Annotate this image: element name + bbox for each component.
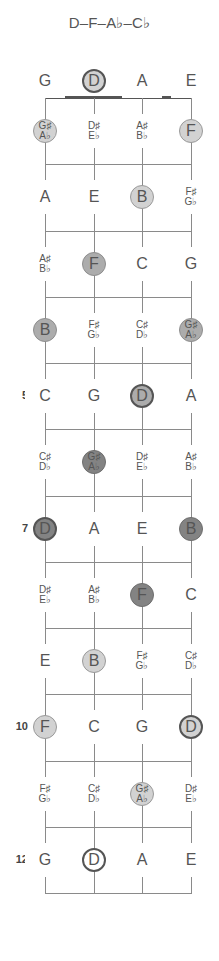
note-fret10-string-G: F <box>25 710 65 744</box>
enharmonic-note-name: F♯G♭ <box>88 320 101 340</box>
flat-name: A♭ <box>185 330 198 340</box>
note-fret8-string-E: C <box>171 578 211 612</box>
note-fret1-string-A: A♯B♭ <box>122 114 162 148</box>
note-fret7-string-E: B <box>171 512 211 546</box>
chord-tone-marker: G♯A♭ <box>130 782 154 806</box>
chord-tone-marker: F <box>130 583 154 607</box>
chord-tone-marker: F <box>179 119 203 143</box>
note-name: A <box>40 189 51 205</box>
note-fret2-string-G: A <box>25 180 65 214</box>
flat-name: G♭ <box>136 661 149 671</box>
note-fret5-string-D: G <box>74 379 114 413</box>
note-name: E <box>186 73 197 89</box>
flat-name: G♭ <box>185 197 198 207</box>
flat-name: B♭ <box>88 595 100 605</box>
note-fret3-string-A: C <box>122 247 162 281</box>
enharmonic-note-name: G♯A♭ <box>136 784 149 804</box>
root-note-marker: D <box>33 517 57 541</box>
note-fret7-string-D: A <box>74 512 114 546</box>
fret-line-12 <box>45 893 192 894</box>
note-fret1-string-G: G♯A♭ <box>25 114 65 148</box>
note-name: E <box>137 521 148 537</box>
note-name: F <box>137 587 147 603</box>
fret-line-5 <box>45 429 192 430</box>
note-name: C <box>136 256 148 272</box>
root-note-marker: D <box>130 384 154 408</box>
note-name: A <box>137 852 148 868</box>
note-name: E <box>186 852 197 868</box>
enharmonic-note-name: A♯B♭ <box>136 121 148 141</box>
flat-name: D♭ <box>39 462 51 472</box>
fretboard-diagram: 571012GDAEG♯A♭D♯E♭A♯B♭FAEBF♯G♭A♯B♭FCGBF♯… <box>0 0 219 961</box>
note-fret9-string-G: E <box>25 644 65 678</box>
note-fret4-string-D: F♯G♭ <box>74 313 114 347</box>
enharmonic-note-name: G♯A♭ <box>39 121 52 141</box>
note-name: F <box>89 256 99 272</box>
note-name: B <box>137 189 148 205</box>
root-note-marker: D <box>179 715 203 739</box>
fret-line-10 <box>45 761 192 762</box>
fret-line-7 <box>45 562 192 563</box>
enharmonic-note-name: A♯B♭ <box>185 452 197 472</box>
fret-line-4 <box>45 363 192 364</box>
chord-tone-marker: F <box>82 252 106 276</box>
note-name: G <box>185 256 197 272</box>
note-fret12-string-E: E <box>171 843 211 877</box>
flat-name: B♭ <box>136 131 148 141</box>
flat-name: E♭ <box>88 131 100 141</box>
note-name: F <box>40 719 50 735</box>
flat-name: A♭ <box>136 794 149 804</box>
note-fret12-string-A: A <box>122 843 162 877</box>
note-fret3-string-E: G <box>171 247 211 281</box>
note-fret8-string-G: D♯E♭ <box>25 578 65 612</box>
note-fret3-string-D: F <box>74 247 114 281</box>
note-name: D <box>185 719 197 735</box>
enharmonic-note-name: A♯B♭ <box>88 585 100 605</box>
note-fret11-string-D: C♯D♭ <box>74 777 114 811</box>
note-fret11-string-E: D♯E♭ <box>171 777 211 811</box>
note-fret6-string-G: C♯D♭ <box>25 445 65 479</box>
note-fret10-string-D: C <box>74 710 114 744</box>
note-fret0-string-D: D <box>74 64 114 98</box>
chord-tone-marker: B <box>82 649 106 673</box>
note-fret6-string-E: A♯B♭ <box>171 445 211 479</box>
note-fret2-string-A: B <box>122 180 162 214</box>
note-name: A <box>137 73 148 89</box>
note-name: G <box>39 852 51 868</box>
note-name: B <box>89 653 100 669</box>
note-fret3-string-G: A♯B♭ <box>25 247 65 281</box>
note-name: E <box>89 189 100 205</box>
note-name: A <box>89 521 100 537</box>
enharmonic-note-name: D♯E♭ <box>88 121 100 141</box>
enharmonic-note-name: G♯A♭ <box>88 452 101 472</box>
note-fret6-string-A: D♯E♭ <box>122 445 162 479</box>
fret-line-2 <box>45 231 192 232</box>
note-fret12-string-D: D <box>74 843 114 877</box>
note-name: E <box>40 653 51 669</box>
fret-line-8 <box>45 628 192 629</box>
note-fret8-string-A: F <box>122 578 162 612</box>
nut <box>45 96 192 99</box>
chord-tone-marker: G♯A♭ <box>179 318 203 342</box>
note-fret5-string-A: D <box>122 379 162 413</box>
note-fret9-string-D: B <box>74 644 114 678</box>
note-name: C <box>39 388 51 404</box>
enharmonic-note-name: F♯G♭ <box>136 651 149 671</box>
note-fret8-string-D: A♯B♭ <box>74 578 114 612</box>
note-fret11-string-A: G♯A♭ <box>122 777 162 811</box>
enharmonic-note-name: D♯E♭ <box>39 585 51 605</box>
flat-name: A♭ <box>88 462 101 472</box>
chord-tone-marker: F <box>33 715 57 739</box>
note-fret12-string-G: G <box>25 843 65 877</box>
flat-name: A♭ <box>39 131 52 141</box>
chord-tone-marker: B <box>179 517 203 541</box>
enharmonic-note-name: D♯E♭ <box>185 784 197 804</box>
flat-name: G♭ <box>39 794 52 804</box>
fret-line-3 <box>45 297 192 298</box>
fret-line-6 <box>45 496 192 497</box>
enharmonic-note-name: F♯G♭ <box>185 187 198 207</box>
root-note-marker: D <box>82 69 106 93</box>
note-fret7-string-G: D <box>25 512 65 546</box>
note-fret9-string-A: F♯G♭ <box>122 644 162 678</box>
note-name: D <box>39 521 51 537</box>
